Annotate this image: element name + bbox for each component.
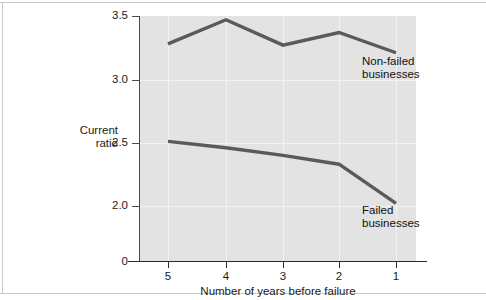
series-label-line-2: businesses [362, 68, 420, 81]
chart-figure: 3.5 3.0 2.5 2.0 0 5 4 3 2 1 Number of ye… [0, 0, 486, 300]
series-label-line-1: Non-failed [362, 55, 420, 68]
series-label-failed-businesses: Failed businesses [362, 204, 420, 229]
data-series-lines [0, 0, 486, 300]
series-label-line-1: Failed [362, 204, 420, 217]
series-line-failed-businesses [168, 141, 396, 203]
series-label-line-2: businesses [362, 217, 420, 230]
series-line-non-failed-businesses [168, 20, 396, 53]
series-label-non-failed-businesses: Non-failed businesses [362, 55, 420, 80]
